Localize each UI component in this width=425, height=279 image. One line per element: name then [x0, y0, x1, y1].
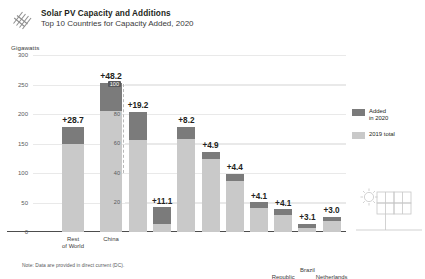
- legend-label-added: Addedin 2020: [369, 108, 388, 122]
- inset-y-tick-label-highlighted: 100: [108, 81, 121, 87]
- inset-y-tick-label: 80: [114, 111, 120, 117]
- bar-value-label: +11.1: [152, 197, 172, 206]
- inset-panel: 20406080100 +19.2UnitedStates+11.1Vietna…: [103, 84, 346, 232]
- bar-value-label: +4.1: [251, 192, 267, 201]
- bar-value-label: +4.9: [203, 141, 219, 150]
- bar-value-label: +4.1: [275, 199, 291, 208]
- bar-segment-2019-total: [153, 224, 171, 232]
- page-subtitle: Top 10 Countries for Capacity Added, 202…: [41, 19, 194, 30]
- x-axis-category-label: Brazil: [300, 267, 315, 274]
- sun-and-solar-panels-line-art-icon: [356, 182, 422, 238]
- inset-bar[interactable]: +3.1Brazil: [298, 224, 316, 232]
- inset-bar[interactable]: +19.2UnitedStates: [129, 112, 147, 232]
- bar-segment-added: [177, 127, 195, 139]
- page-title: Solar PV Capacity and Additions: [41, 9, 194, 19]
- y-axis-tick-label: 0: [25, 229, 28, 235]
- bar-segment-2019-total: [202, 159, 220, 232]
- x-axis-category-label: Netherlands: [316, 274, 348, 279]
- inset-bar[interactable]: +4.9Germany: [202, 152, 220, 232]
- legend-swatch-total: [352, 132, 365, 139]
- header-text-block: Solar PV Capacity and Additions Top 10 C…: [41, 8, 194, 30]
- inset-bar[interactable]: +3.0Netherlands: [323, 217, 341, 232]
- bar-segment-added: [129, 112, 147, 140]
- x-axis-category-label: Republicof Korea: [272, 274, 295, 279]
- chart-header: Solar PV Capacity and Additions Top 10 C…: [10, 8, 194, 32]
- bar-segment-2019-total: [177, 139, 195, 232]
- inset-y-tick-label: 60: [114, 140, 120, 146]
- bar-value-label: +8.2: [178, 116, 194, 125]
- inset-bar[interactable]: +4.1Republicof Korea: [274, 209, 292, 232]
- y-axis-unit-label: Gigawatts: [11, 44, 39, 51]
- connector-line-top: [123, 84, 124, 173]
- legend-item-total[interactable]: 2019 total: [352, 131, 395, 139]
- bar-value-label: +3.1: [299, 213, 315, 222]
- x-axis-category-label: Restof World: [62, 236, 84, 249]
- solar-panel-hatch-logo-icon: [10, 8, 34, 32]
- y-axis-tick-label: 200: [18, 111, 28, 117]
- bar-segment-2019-total: [226, 181, 244, 233]
- y-axis-tick-label: 100: [18, 170, 28, 176]
- inset-y-tick-label: 40: [114, 170, 120, 176]
- legend-label-total: 2019 total: [369, 131, 395, 138]
- inset-bar[interactable]: +8.2Japan: [177, 127, 195, 232]
- bar-segment-added: [153, 207, 171, 223]
- y-axis-tick-label: 50: [21, 200, 28, 206]
- legend-item-added[interactable]: Addedin 2020: [352, 108, 395, 122]
- x-axis-category-label: China: [103, 236, 118, 243]
- y-axis-tick-label: 300: [18, 52, 28, 58]
- bar-value-label: +4.4: [227, 163, 243, 172]
- inset-bar[interactable]: +11.1Vietnam: [153, 207, 171, 232]
- legend-swatch-added: [352, 109, 365, 116]
- plot-area: +28.7Restof World+48.2China 050100150200…: [11, 55, 346, 232]
- inset-bar[interactable]: +4.4India: [226, 174, 244, 232]
- footnote: Note: Data are provided in direct curren…: [22, 263, 124, 268]
- inset-bar[interactable]: +4.1Australia: [250, 202, 268, 232]
- bar-segment-2019-total: [323, 221, 341, 232]
- bar-segment-added: [202, 152, 220, 159]
- bar-segment-2019-total: [274, 215, 292, 232]
- inset-y-tick-label: 20: [114, 199, 120, 205]
- bar-segment-2019-total: [250, 208, 268, 232]
- y-axis-tick-label: 250: [18, 82, 28, 88]
- bar-value-label: +3.0: [324, 206, 340, 215]
- bar-segment-2019-total: [298, 228, 316, 232]
- chart-legend: Addedin 2020 2019 total: [352, 108, 395, 148]
- y-axis-tick-label: 150: [18, 141, 28, 147]
- bar-segment-2019-total: [129, 140, 147, 232]
- bar-value-label: +19.2: [128, 101, 149, 110]
- inset-bars-group: +19.2UnitedStates+11.1Vietnam+8.2Japan+4…: [125, 84, 346, 232]
- chart-canvas: Solar PV Capacity and Additions Top 10 C…: [0, 0, 425, 279]
